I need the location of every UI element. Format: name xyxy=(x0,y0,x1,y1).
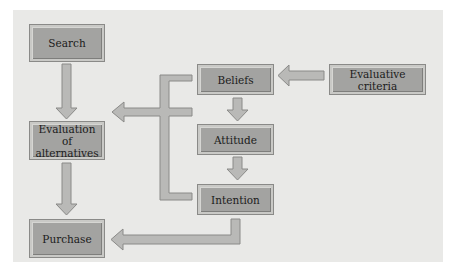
node-search: Search xyxy=(30,25,104,61)
node-beliefs-label: Beliefs xyxy=(217,74,253,86)
node-attitude-label: Attitude xyxy=(214,134,257,146)
arrow-criteria-to-beliefs xyxy=(278,65,324,86)
node-beliefs: Beliefs xyxy=(198,65,273,94)
node-purchase: Purchase xyxy=(30,220,104,257)
node-intention: Intention xyxy=(198,185,273,214)
node-evaluation-of-alternatives: Evaluation of alternatives xyxy=(30,122,104,159)
arrow-search-to-evaluation xyxy=(56,64,77,119)
node-search-label: Search xyxy=(48,37,85,49)
arrow-beliefs-to-attitude xyxy=(227,98,248,121)
node-evaluative-criteria: Evaluative criteria xyxy=(330,65,425,94)
arrow-intention-to-purchase xyxy=(111,219,240,250)
node-purchase-label: Purchase xyxy=(42,233,91,245)
node-evaluative-criteria-label: Evaluative criteria xyxy=(332,68,423,92)
arrow-evaluation-to-purchase xyxy=(56,163,77,215)
node-attitude: Attitude xyxy=(198,125,273,154)
node-evaluation-label: Evaluation of alternatives xyxy=(32,123,102,159)
arrow-bracket-to-evaluation xyxy=(112,75,192,200)
node-intention-label: Intention xyxy=(211,194,260,206)
arrow-attitude-to-intention xyxy=(227,157,248,180)
